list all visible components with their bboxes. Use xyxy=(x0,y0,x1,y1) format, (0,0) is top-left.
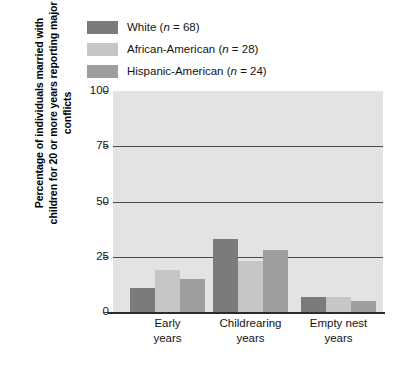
y-tick-mark-50 xyxy=(103,202,108,203)
y-tick-mark-75 xyxy=(103,146,108,147)
bar-childrearing-years-hispanic-american xyxy=(263,250,288,312)
y-tick-mark-25 xyxy=(103,257,108,258)
bar-empty-nest-years-white xyxy=(301,297,326,312)
y-axis-title: Percentage of individuals married with c… xyxy=(24,0,82,228)
y-tick-mark-0 xyxy=(103,312,108,313)
legend-item-african-american: African-American (n = 28) xyxy=(87,38,387,60)
bar-container xyxy=(113,91,383,312)
x-axis-label-2: Empty nestyears xyxy=(284,316,394,346)
bar-early-years-african-american xyxy=(155,270,180,312)
bar-early-years-hispanic-american xyxy=(180,279,205,312)
bar-childrearing-years-african-american xyxy=(238,261,263,312)
legend-item-white: White (n = 68) xyxy=(87,16,387,38)
x-axis-line xyxy=(108,312,385,314)
bar-empty-nest-years-hispanic-american xyxy=(351,301,376,312)
legend-label-african-american: African-American (n = 28) xyxy=(127,43,258,56)
bar-early-years-white xyxy=(130,288,155,312)
x-axis-label-line2: years xyxy=(284,331,394,346)
legend-label-hispanic-american: Hispanic-American (n = 24) xyxy=(127,65,267,78)
chart-legend: White (n = 68) African-American (n = 28)… xyxy=(87,16,387,82)
y-axis-ticks: 0255075100 xyxy=(79,0,109,367)
legend-label-white: White (n = 68) xyxy=(127,21,200,34)
y-tick-mark-100 xyxy=(103,91,108,92)
bar-childrearing-years-white xyxy=(213,239,238,312)
x-axis-labels: EarlyyearsChildrearingyearsEmpty nestyea… xyxy=(113,316,383,360)
legend-item-hispanic-american: Hispanic-American (n = 24) xyxy=(87,60,387,82)
bar-empty-nest-years-african-american xyxy=(326,297,351,312)
x-axis-label-line1: Empty nest xyxy=(284,316,394,331)
